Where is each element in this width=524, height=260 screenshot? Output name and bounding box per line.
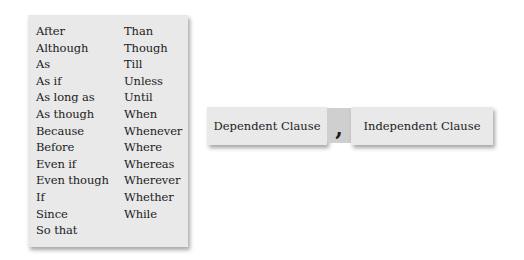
subordinating-conjunctions-list: After Although As As if As long as As th… [28, 15, 188, 247]
conjunction-item: Since [36, 206, 109, 223]
conjunction-item: So that [36, 222, 109, 239]
conjunction-item: Before [36, 139, 109, 156]
conjunction-item: As long as [36, 89, 109, 106]
conjunction-item: While [124, 206, 182, 223]
conjunction-item: Although [36, 40, 109, 57]
dependent-clause-box: Dependent Clause [207, 107, 327, 145]
conjunction-item: If [36, 189, 109, 206]
conjunction-item: Even though [36, 172, 109, 189]
conjunction-item: As though [36, 106, 109, 123]
conjunction-item: Till [124, 56, 182, 73]
conjunction-item: Though [124, 40, 182, 57]
conjunctions-left-column: After Although As As if As long as As th… [36, 23, 109, 239]
conjunction-item: As if [36, 73, 109, 90]
conjunction-item: Whether [124, 189, 182, 206]
conjunction-item: Whereas [124, 156, 182, 173]
conjunction-item: Where [124, 139, 182, 156]
independent-clause-label: Independent Clause [364, 119, 481, 133]
conjunction-item: As [36, 56, 109, 73]
dependent-clause-label: Dependent Clause [214, 119, 321, 133]
conjunction-item: Whenever [124, 123, 182, 140]
conjunction-item: Than [124, 23, 182, 40]
comma-separator: , [327, 108, 351, 143]
conjunction-item: Until [124, 89, 182, 106]
conjunction-item: When [124, 106, 182, 123]
conjunction-item: After [36, 23, 109, 40]
conjunctions-right-column: Than Though Till Unless Until When Whene… [124, 23, 182, 222]
conjunction-item: Wherever [124, 172, 182, 189]
conjunction-item: Because [36, 123, 109, 140]
conjunction-item: Unless [124, 73, 182, 90]
conjunction-item: Even if [36, 156, 109, 173]
independent-clause-box: Independent Clause [351, 107, 493, 145]
comma-glyph: , [335, 117, 343, 139]
